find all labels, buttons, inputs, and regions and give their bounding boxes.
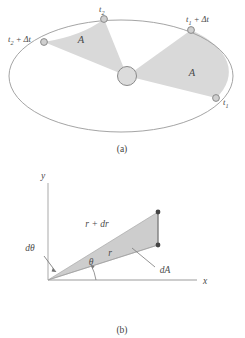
- panel-a-graphic: A A t2 + Δt t2 t1 + Δt t1 (a): [0, 0, 245, 155]
- d-theta-leader: [44, 256, 56, 272]
- marker-t1: [213, 95, 220, 102]
- d-theta-label: dθ: [25, 243, 35, 253]
- swept-area-left: [44, 19, 127, 76]
- caption-b: (b): [116, 325, 127, 336]
- area-label-right: A: [188, 67, 196, 78]
- label-t2-sub: 2: [101, 9, 104, 16]
- label-t1-sub: 1: [225, 102, 228, 109]
- swept-area-right: [127, 30, 229, 98]
- sun-icon: [118, 67, 137, 86]
- r-label: r: [108, 248, 112, 258]
- label-t2: t2: [99, 4, 104, 16]
- marker-t2: [101, 16, 108, 23]
- caption-a: (a): [117, 144, 128, 155]
- r-plus-dr-label: r + dr: [85, 219, 109, 229]
- y-axis-label: y: [40, 171, 46, 181]
- label-t1-plus-dt: t1 + Δt: [186, 14, 210, 26]
- label-t1-plus-dt-rest: + Δt: [191, 14, 209, 24]
- area-label-left: A: [77, 34, 85, 45]
- dA-label: dA: [160, 265, 171, 275]
- panel-b-graphic: y x r + dr r dθ θ dA (b): [0, 155, 245, 338]
- theta-label: θ: [89, 257, 94, 267]
- endpoint-dot-outer: [156, 210, 161, 215]
- x-axis-label: x: [202, 276, 208, 286]
- marker-t2-plus-dt: [41, 39, 48, 46]
- dA-leader: [132, 248, 155, 267]
- marker-t1-plus-dt: [188, 27, 195, 34]
- figure-root: A A t2 + Δt t2 t1 + Δt t1 (a) y x: [0, 0, 245, 338]
- label-t2-plus-dt: t2 + Δt: [8, 34, 32, 46]
- label-t1: t1: [223, 97, 228, 109]
- endpoint-dot-inner: [156, 243, 161, 248]
- label-t2-plus-dt-rest: + Δt: [13, 34, 31, 44]
